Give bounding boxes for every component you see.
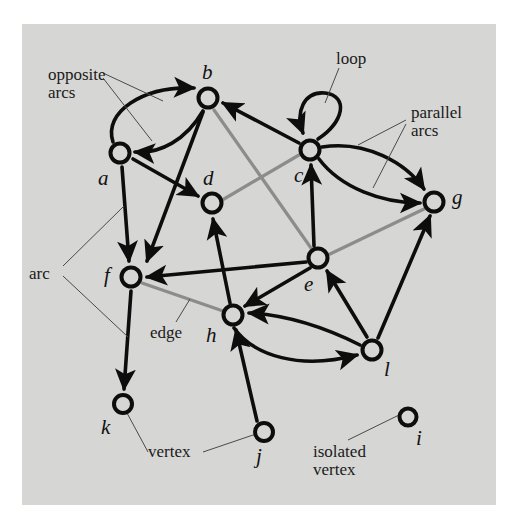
annotation-arc: arc — [29, 265, 50, 283]
vertex-label-b: b — [202, 62, 213, 83]
vertex-label-e: e — [304, 274, 313, 295]
annotation-edge: edge — [150, 324, 182, 342]
arc-h-to-l — [234, 328, 357, 361]
vertex-j[interactable] — [255, 423, 273, 441]
vertex-label-j: j — [256, 446, 262, 467]
arc-j-to-h — [236, 330, 257, 421]
vertex-label-h: h — [206, 325, 217, 346]
vertex-c[interactable] — [301, 141, 320, 160]
arc-b-to-f — [147, 112, 203, 261]
arc-e-to-c — [311, 165, 314, 246]
arc-f-to-k — [124, 291, 131, 389]
vertex-g[interactable] — [425, 193, 444, 212]
arc-l-to-h — [249, 313, 360, 345]
leader-parallel-arcs-2 — [373, 124, 406, 188]
vertex-e[interactable] — [309, 249, 328, 268]
leader-isolated-vertex — [348, 415, 399, 440]
leader-vertex-j — [203, 434, 256, 452]
vertex-k[interactable] — [114, 395, 132, 413]
edge-group — [142, 110, 424, 311]
arc-e-to-f — [147, 262, 306, 277]
vertex-label-g: g — [452, 187, 463, 208]
vertex-label-f: f — [104, 265, 110, 286]
vertex-label-a: a — [98, 168, 109, 189]
arc-e-to-h — [245, 268, 310, 306]
arc-group — [111, 88, 430, 421]
annotation-opposite-arcs: opposite arcs — [48, 66, 106, 103]
edge-e-g — [330, 209, 424, 254]
leader-parallel-arcs-1 — [358, 120, 406, 145]
vertex-a[interactable] — [111, 144, 130, 163]
vertex-label-k: k — [101, 417, 110, 438]
vertex-l[interactable] — [363, 341, 382, 360]
arc-l-to-g — [378, 216, 430, 338]
vertex-label-i: i — [416, 428, 422, 449]
leader-opposite-arcs-1 — [103, 73, 163, 101]
arc-h-to-d — [213, 219, 230, 303]
vertex-b[interactable] — [199, 89, 218, 108]
arc-c-loop — [300, 93, 340, 139]
vertex-label-l: l — [384, 359, 390, 380]
annotation-vertex: vertex — [148, 443, 190, 461]
vertex-h[interactable] — [224, 306, 243, 325]
vertex-i[interactable] — [400, 409, 417, 426]
vertex-f[interactable] — [122, 268, 141, 287]
arc-a-to-d — [133, 159, 198, 196]
leader-vertex-k — [127, 413, 148, 452]
vertex-label-d: d — [203, 168, 214, 189]
vertex-d[interactable] — [203, 194, 222, 213]
figure-page: a b c d e f g h i j k l opposite arcs lo… — [0, 0, 519, 528]
arc-l-to-e — [327, 271, 367, 337]
annotation-loop: loop — [336, 50, 366, 68]
leader-edge — [176, 299, 190, 322]
annotation-isolated-vertex: isolated vertex — [313, 443, 366, 480]
leader-arc-1 — [63, 206, 124, 266]
edge-d-c — [224, 155, 299, 199]
annotation-parallel-arcs: parallel arcs — [411, 104, 462, 141]
leader-arc-2 — [63, 276, 128, 337]
arc-c-to-g-lower — [319, 159, 420, 203]
leader-line-group — [63, 68, 406, 452]
arc-c-to-g-upper — [322, 146, 424, 189]
vertex-label-c: c — [294, 165, 303, 186]
arc-a-to-f — [122, 167, 129, 261]
edge-f-h — [142, 283, 223, 311]
